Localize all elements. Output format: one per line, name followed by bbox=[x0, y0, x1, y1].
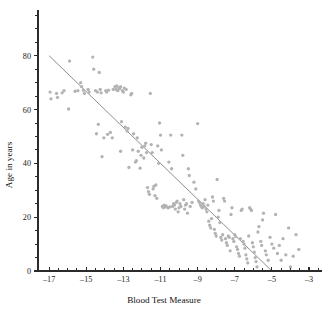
data-point bbox=[259, 240, 262, 243]
data-point bbox=[205, 210, 208, 213]
data-point bbox=[289, 265, 292, 268]
y-axis-title: Age in years bbox=[4, 141, 14, 188]
data-point bbox=[284, 253, 287, 256]
data-point bbox=[168, 205, 171, 208]
data-point bbox=[216, 216, 219, 219]
data-point bbox=[280, 259, 283, 262]
data-point bbox=[144, 142, 147, 145]
data-point bbox=[234, 235, 237, 238]
data-point bbox=[67, 107, 70, 110]
data-point bbox=[127, 166, 130, 169]
data-point bbox=[131, 148, 134, 151]
data-point bbox=[189, 205, 192, 208]
data-point bbox=[62, 89, 65, 92]
data-point bbox=[102, 136, 105, 139]
x-tick-label: –17 bbox=[42, 275, 55, 284]
data-point bbox=[220, 238, 223, 241]
data-point bbox=[56, 96, 59, 99]
data-point bbox=[180, 133, 183, 136]
data-point bbox=[228, 236, 231, 239]
data-point bbox=[158, 121, 161, 124]
data-point bbox=[109, 131, 112, 134]
y-axis-tick-labels: 020406080 bbox=[23, 52, 31, 276]
data-point bbox=[232, 240, 235, 243]
y-tick-label: 60 bbox=[23, 106, 31, 115]
data-point bbox=[55, 92, 58, 95]
data-point bbox=[174, 207, 177, 210]
data-point bbox=[207, 220, 210, 223]
data-point bbox=[297, 248, 300, 251]
data-point bbox=[154, 183, 157, 186]
y-tick-label: 80 bbox=[23, 52, 31, 61]
data-point bbox=[264, 249, 267, 252]
data-point bbox=[190, 201, 193, 204]
y-tick-label: 0 bbox=[27, 267, 31, 276]
data-point bbox=[281, 237, 284, 240]
data-point bbox=[218, 221, 221, 224]
data-point bbox=[176, 210, 179, 213]
data-point bbox=[48, 90, 51, 93]
data-point bbox=[252, 245, 255, 248]
x-tick-label: –13 bbox=[116, 275, 129, 284]
data-point bbox=[156, 144, 159, 147]
data-point bbox=[194, 187, 197, 190]
data-points-group bbox=[48, 55, 300, 268]
data-point bbox=[122, 90, 125, 93]
data-point bbox=[217, 209, 220, 212]
data-point bbox=[211, 195, 214, 198]
data-point bbox=[179, 205, 182, 208]
data-point bbox=[68, 59, 71, 62]
data-point bbox=[188, 174, 191, 177]
axes-group bbox=[37, 10, 322, 271]
data-point bbox=[276, 252, 279, 255]
data-point bbox=[292, 255, 295, 258]
data-point bbox=[142, 156, 145, 159]
data-point bbox=[268, 236, 271, 239]
data-point bbox=[187, 167, 190, 170]
data-point bbox=[181, 154, 184, 157]
plot-canvas: –17–15–13–11–9–7–5–3 020406080 Blood Tes… bbox=[0, 0, 328, 310]
data-point bbox=[254, 260, 257, 263]
data-point bbox=[260, 244, 263, 247]
data-point bbox=[244, 253, 247, 256]
data-point bbox=[215, 178, 218, 181]
data-point bbox=[95, 132, 98, 135]
data-point bbox=[107, 89, 110, 92]
data-point bbox=[80, 85, 83, 88]
data-point bbox=[146, 186, 149, 189]
data-point bbox=[210, 217, 213, 220]
data-point bbox=[253, 251, 256, 254]
data-point bbox=[236, 248, 239, 251]
data-point bbox=[185, 202, 188, 205]
data-point bbox=[242, 242, 245, 245]
data-point bbox=[212, 199, 215, 202]
data-point bbox=[239, 237, 242, 240]
data-point bbox=[270, 242, 273, 245]
x-axis-ticks bbox=[49, 267, 318, 272]
x-tick-label: –15 bbox=[79, 275, 92, 284]
data-point bbox=[243, 246, 246, 249]
data-point bbox=[96, 90, 99, 93]
data-point bbox=[265, 253, 268, 256]
data-point bbox=[245, 257, 248, 260]
data-point bbox=[202, 205, 205, 208]
data-point bbox=[87, 90, 90, 93]
data-point bbox=[251, 241, 254, 244]
data-point bbox=[176, 199, 179, 202]
x-axis-title: Blood Test Measure bbox=[127, 295, 201, 305]
data-point bbox=[267, 259, 270, 262]
data-point bbox=[223, 199, 226, 202]
data-point bbox=[272, 246, 275, 249]
data-point bbox=[254, 256, 257, 259]
data-point bbox=[149, 92, 152, 95]
data-point bbox=[99, 91, 102, 94]
x-tick-label: –11 bbox=[154, 275, 167, 284]
data-point bbox=[125, 88, 128, 91]
data-point bbox=[79, 81, 82, 84]
data-point bbox=[183, 207, 186, 210]
data-point bbox=[250, 209, 253, 212]
data-point bbox=[169, 133, 172, 136]
scatter-plot-figure: –17–15–13–11–9–7–5–3 020406080 Blood Tes… bbox=[0, 0, 328, 310]
data-point bbox=[224, 237, 227, 240]
data-point bbox=[99, 88, 102, 91]
